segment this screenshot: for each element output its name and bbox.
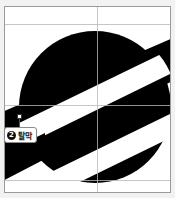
planet-artwork[interactable] xyxy=(5,7,171,193)
step-number-badge: 2 xyxy=(7,131,16,140)
horizontal-guide-bottom[interactable] xyxy=(5,180,170,181)
artboard-canvas[interactable] xyxy=(4,6,171,193)
vertical-guide[interactable] xyxy=(97,7,98,192)
horizontal-guide-top[interactable] xyxy=(5,24,170,25)
smart-guide-label: 2 탈막 xyxy=(4,127,37,143)
smart-guide-text: 탈막 xyxy=(18,130,32,141)
horizontal-guide-middle[interactable] xyxy=(5,105,170,106)
